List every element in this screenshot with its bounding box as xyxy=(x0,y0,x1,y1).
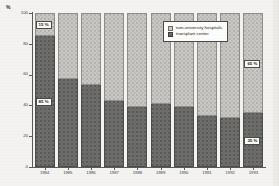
bar-segment-transplant-center xyxy=(151,104,171,167)
legend-item-non-university-hospitals: non-university hospitals xyxy=(168,26,222,31)
bar-1986 xyxy=(81,13,101,167)
bar-segment-non-university-hospitals xyxy=(81,13,101,85)
y-axis-tick-label: 60 xyxy=(6,72,28,76)
chart-legend: non-university hospitals transplant cent… xyxy=(163,21,228,42)
y-axis-tick-labels: 020406080100 xyxy=(4,0,28,186)
legend-item-transplant-center: transplant center xyxy=(168,32,222,37)
legend-swatch-icon-transplant-center xyxy=(168,32,173,37)
bar-segment-transplant-center xyxy=(220,118,240,167)
x-axis-tick-label-1993: 1993 xyxy=(238,171,268,175)
legend-label-transplant-center: transplant center xyxy=(176,32,209,36)
y-axis-tick-label: 20 xyxy=(6,134,28,138)
plot-area xyxy=(33,13,265,167)
y-axis-tick-label: 80 xyxy=(6,42,28,46)
bar-segment-transplant-center xyxy=(197,116,217,167)
legend-label-non-university-hospitals: non-university hospitals xyxy=(176,26,222,30)
callout-top-right: 65 % xyxy=(244,60,260,68)
bar-1985 xyxy=(58,13,78,167)
bar-segment-transplant-center xyxy=(127,107,147,167)
callout-bottom-right: 35 % xyxy=(244,137,260,145)
bar-segment-transplant-center xyxy=(104,101,124,167)
chart-figure: % 020406080100 1984198519861987198819891… xyxy=(0,0,279,186)
bar-1987 xyxy=(104,13,124,167)
bar-segment-transplant-center xyxy=(81,85,101,167)
bar-segment-non-university-hospitals xyxy=(127,13,147,107)
bar-segment-transplant-center xyxy=(174,107,194,167)
callout-bottom-left: 85 % xyxy=(36,98,52,106)
y-axis-tick-label: 100 xyxy=(6,11,28,15)
legend-swatch-icon-non-university-hospitals xyxy=(168,26,173,31)
figure-right-margin xyxy=(273,0,279,186)
y-axis-tick xyxy=(29,167,33,168)
y-axis-tick-label: 0 xyxy=(6,165,28,169)
bar-1988 xyxy=(127,13,147,167)
y-axis-tick-label: 40 xyxy=(6,103,28,107)
bar-segment-non-university-hospitals xyxy=(58,13,78,79)
bar-segment-non-university-hospitals xyxy=(104,13,124,101)
callout-top-left: 15 % xyxy=(36,21,52,29)
bar-segment-transplant-center xyxy=(58,79,78,167)
bar-1984 xyxy=(35,13,55,167)
